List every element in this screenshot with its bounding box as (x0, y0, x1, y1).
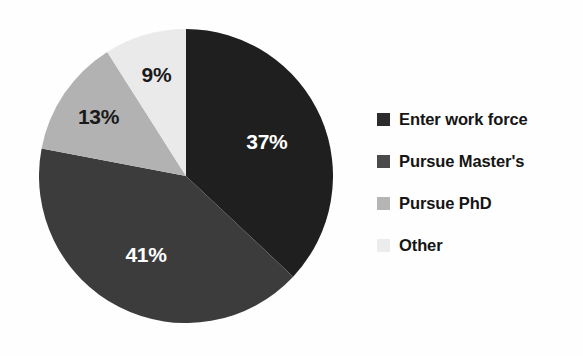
legend-item-label: Pursue PhD (399, 195, 492, 212)
legend-item-label: Enter work force (399, 111, 528, 128)
pie-slice-data-label: 13% (78, 105, 120, 128)
legend-swatch-icon (377, 113, 390, 126)
legend-swatch-icon (377, 155, 390, 168)
legend-swatch-icon (377, 239, 390, 252)
pie-slice-data-label: 41% (125, 243, 167, 266)
legend-item-label: Pursue Master's (399, 153, 524, 170)
pie-chart-plot-area: 37%41%13%9% (39, 29, 333, 323)
chart-legend: Enter work forcePursue Master'sPursue Ph… (377, 98, 577, 266)
pie-slice-group (39, 29, 333, 323)
pie-chart-svg: 37%41%13%9% (39, 29, 333, 323)
legend-swatch-icon (377, 197, 390, 210)
pie-chart-figure: 37%41%13%9% Enter work forcePursue Maste… (0, 0, 583, 356)
legend-item[interactable]: Other (377, 224, 577, 266)
pie-slice-data-label: 37% (246, 130, 288, 153)
legend-item[interactable]: Pursue Master's (377, 140, 577, 182)
pie-slice-data-label: 9% (142, 63, 172, 86)
legend-item[interactable]: Pursue PhD (377, 182, 577, 224)
legend-item[interactable]: Enter work force (377, 98, 577, 140)
legend-item-label: Other (399, 237, 443, 254)
